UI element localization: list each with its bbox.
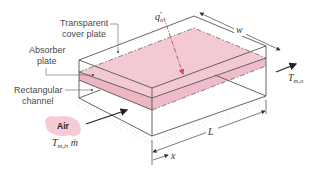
solar-collector-diagram: qo" w L x Tm,o Air Tm,i, ṁ [0, 0, 318, 174]
absorber-label-line1: Absorber [29, 45, 66, 55]
cover-plate-label-line2: cover plate [62, 29, 106, 39]
heat-flux-label: qo" [155, 10, 164, 23]
absorber-label-line2: plate [37, 56, 57, 66]
channel-label-line1: Rectangular [14, 85, 63, 95]
x-axis: x [153, 150, 176, 161]
outlet: Tm,o [276, 64, 304, 84]
outlet-label: Tm,o [288, 72, 304, 84]
absorber-plate-shape [79, 28, 266, 110]
air-label: Air [57, 121, 70, 131]
cover-plate-label-line1: Transparent [60, 18, 109, 28]
x-label: x [170, 150, 176, 161]
channel-label-line2: channel [22, 96, 54, 106]
inlet: Air Tm,i, ṁ [45, 110, 127, 149]
width-label: w [236, 24, 243, 35]
inlet-label: Tm,i, ṁ [52, 137, 78, 149]
length-label: L [207, 126, 214, 137]
